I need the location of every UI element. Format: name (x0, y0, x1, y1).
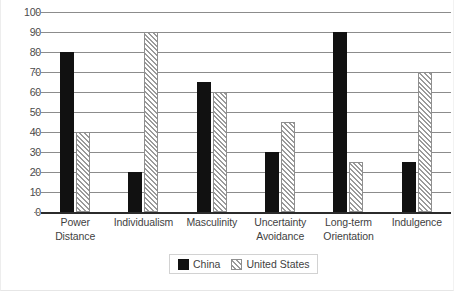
bar-china (128, 172, 142, 212)
bar-united-states (76, 132, 90, 212)
bar-china (265, 152, 279, 212)
bar-group (246, 12, 314, 212)
y-axis: 0102030405060708090100 (1, 0, 41, 291)
x-axis-baseline (41, 212, 451, 214)
legend-item-china[interactable]: China (178, 259, 220, 270)
bar-united-states (349, 162, 363, 212)
legend-item-united-states[interactable]: United States (231, 259, 309, 270)
bar-china (60, 52, 74, 212)
y-axis-tick-mark (34, 52, 39, 53)
legend-label: China (193, 259, 220, 270)
y-axis-tick-mark (34, 72, 39, 73)
bar-group (41, 12, 109, 212)
y-axis-tick-mark (34, 132, 39, 133)
y-axis-tick-mark (34, 12, 39, 13)
bar-group (314, 12, 382, 212)
solid-black-swatch (178, 259, 189, 270)
y-axis-tick-mark (34, 152, 39, 153)
y-axis-tick-mark (34, 92, 39, 93)
bar-china (402, 162, 416, 212)
y-axis-tick-mark (34, 192, 39, 193)
y-axis-tick-mark (34, 172, 39, 173)
bar-china (333, 32, 347, 212)
x-axis-label-line: Distance (33, 230, 117, 244)
hatched-gray-swatch (231, 259, 242, 270)
bar-united-states (281, 122, 295, 212)
y-axis-tick-mark (34, 32, 39, 33)
x-axis-label-indulgence: Indulgence (375, 216, 454, 230)
chart-legend: ChinaUnited States (169, 254, 318, 274)
bar-group (178, 12, 246, 212)
y-axis-tick-mark (34, 212, 39, 213)
bar-china (197, 82, 211, 212)
bar-united-states (213, 92, 227, 212)
x-axis-label-line: Indulgence (375, 216, 454, 230)
bar-group (109, 12, 177, 212)
legend-label: United States (246, 259, 309, 270)
x-axis-label-line: Orientation (306, 230, 390, 244)
bar-united-states (418, 72, 432, 212)
bar-united-states (144, 32, 158, 212)
x-axis-category-labels: PowerDistanceIndividualismMasculinityUnc… (41, 216, 451, 252)
plot-area (41, 12, 451, 212)
y-axis-tick-mark (34, 112, 39, 113)
bar-group (383, 12, 451, 212)
bar-chart: 0102030405060708090100 PowerDistanceIndi… (0, 0, 454, 291)
